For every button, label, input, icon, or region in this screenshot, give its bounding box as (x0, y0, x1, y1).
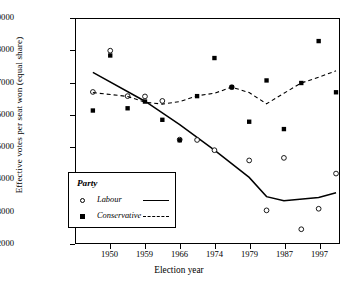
x-tick-label: 1966 (160, 249, 200, 259)
trend-line-conservative (93, 71, 336, 104)
y-tick-label: 12000 (0, 239, 14, 247)
data-point-conservative (212, 56, 216, 60)
x-axis-title: Election year (0, 265, 358, 275)
x-tick-mark (250, 244, 251, 249)
y-axis-title: Effective votes per seat won (equal shar… (14, 0, 24, 230)
legend-item-labour: Labour (69, 193, 177, 209)
data-point-conservative (160, 118, 164, 122)
data-point-labour (90, 90, 95, 95)
data-point-conservative (230, 85, 234, 89)
filled-square-marker-icon (80, 214, 85, 219)
data-point-conservative (125, 106, 129, 110)
x-tick-mark (180, 244, 181, 249)
data-point-labour (264, 208, 269, 213)
y-tick-label: 14000 (0, 174, 14, 182)
chart-legend: Party Labour Conservative (68, 172, 176, 228)
x-tick-mark (215, 244, 216, 249)
chart-figure: Effective votes per seat won (equal shar… (0, 0, 358, 285)
y-tick-label: 15000 (0, 142, 14, 150)
data-point-conservative (264, 78, 268, 82)
legend-label-labour: Labour (97, 195, 122, 204)
y-tick-label: 17000 (0, 78, 14, 86)
data-point-labour (316, 206, 321, 211)
data-point-labour (143, 94, 148, 99)
data-point-conservative (91, 108, 95, 112)
data-point-conservative (299, 81, 303, 85)
data-point-conservative (143, 99, 147, 103)
data-point-labour (299, 227, 304, 232)
x-tick-label: 1959 (125, 249, 165, 259)
y-tick-label: 18000 (0, 45, 14, 53)
x-tick-mark (320, 244, 321, 249)
open-circle-marker-icon (80, 198, 85, 203)
data-point-labour (108, 48, 113, 53)
y-tick-label: 13000 (0, 207, 14, 215)
data-point-conservative (178, 138, 182, 142)
dashed-line-sample-icon (143, 216, 169, 217)
x-tick-label: 1974 (195, 249, 235, 259)
y-tick-label: 16000 (0, 110, 14, 118)
data-point-conservative (108, 53, 112, 57)
data-point-conservative (316, 39, 320, 43)
data-point-labour (247, 158, 252, 163)
data-point-conservative (247, 120, 251, 124)
data-point-conservative (282, 127, 286, 131)
legend-item-conservative: Conservative (69, 209, 177, 225)
y-tick-label: 19000 (0, 13, 14, 21)
x-tick-mark (285, 244, 286, 249)
solid-line-sample-icon (143, 200, 169, 201)
y-tick-mark (70, 244, 75, 245)
x-tick-label: 1997 (300, 249, 340, 259)
data-point-labour (212, 148, 217, 153)
data-point-labour (195, 138, 200, 143)
legend-label-conservative: Conservative (97, 211, 141, 220)
x-tick-label: 1987 (265, 249, 305, 259)
data-point-conservative (195, 94, 199, 98)
data-point-conservative (334, 90, 338, 94)
x-tick-label: 1979 (230, 249, 270, 259)
x-tick-mark (110, 244, 111, 249)
data-point-labour (282, 156, 287, 161)
x-tick-label: 1950 (90, 249, 130, 259)
data-point-labour (160, 99, 165, 104)
x-tick-mark (145, 244, 146, 249)
legend-title: Party (77, 178, 97, 188)
data-point-labour (334, 171, 339, 176)
